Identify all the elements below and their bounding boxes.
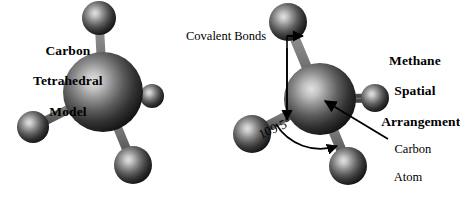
hydrogen-atom-bottom (329, 147, 367, 185)
carbon-atom-center (284, 63, 356, 135)
right-model-title-line1: Methane (389, 53, 441, 68)
left-model-title-line1: Carbon (46, 43, 91, 58)
right-model-title-line2: Spatial (394, 83, 435, 98)
carbon-atom-label-line1: Carbon (395, 142, 432, 156)
left-model-title-line2: Tetrahedral (33, 73, 103, 88)
hydrogen-atom-right (140, 84, 164, 108)
carbon-atom-label: Carbon Atom (382, 128, 446, 198)
left-model-title: Carbon Tetrahedral Model (8, 28, 114, 134)
hydrogen-atom-bottom (114, 146, 152, 184)
left-model-title-line3: Model (49, 104, 86, 119)
carbon-atom-label-line2: Atom (394, 170, 422, 184)
covalent-bonds-label: Covalent Bonds (186, 29, 284, 43)
right-model-title-line3: Arrangement (381, 114, 460, 129)
